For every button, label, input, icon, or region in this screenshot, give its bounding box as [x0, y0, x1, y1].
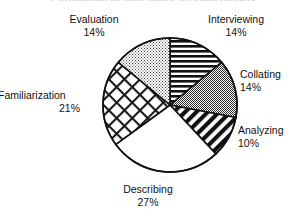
- slice-label-collating-value: 14%: [240, 81, 306, 94]
- slice-label-describing-value: 27%: [96, 196, 200, 209]
- slice-label-evaluation-value: 14%: [46, 26, 142, 39]
- slice-label-analyzing-value: 10%: [238, 137, 308, 150]
- slice-label-evaluation: Evaluation 14%: [46, 13, 142, 38]
- slice-label-collating-name: Collating: [240, 68, 306, 81]
- slice-label-evaluation-name: Evaluation: [46, 13, 142, 26]
- slice-label-describing: Describing 27%: [96, 183, 200, 208]
- slice-label-analyzing-name: Analyzing: [238, 124, 308, 137]
- slice-label-interviewing-value: 14%: [184, 26, 288, 39]
- slice-label-familiarization-value: 21%: [0, 102, 98, 115]
- slice-label-interviewing: Interviewing 14%: [184, 13, 288, 38]
- pie-chart-figure: Percentage of time spent on each activit…: [0, 0, 308, 224]
- slice-label-interviewing-name: Interviewing: [184, 13, 288, 26]
- slice-label-familiarization-name: Familiarization: [0, 89, 98, 102]
- slice-label-collating: Collating 14%: [240, 68, 306, 93]
- slice-label-analyzing: Analyzing 10%: [238, 124, 308, 149]
- slice-label-describing-name: Describing: [96, 183, 200, 196]
- slice-label-familiarization: Familiarization 21%: [0, 89, 98, 114]
